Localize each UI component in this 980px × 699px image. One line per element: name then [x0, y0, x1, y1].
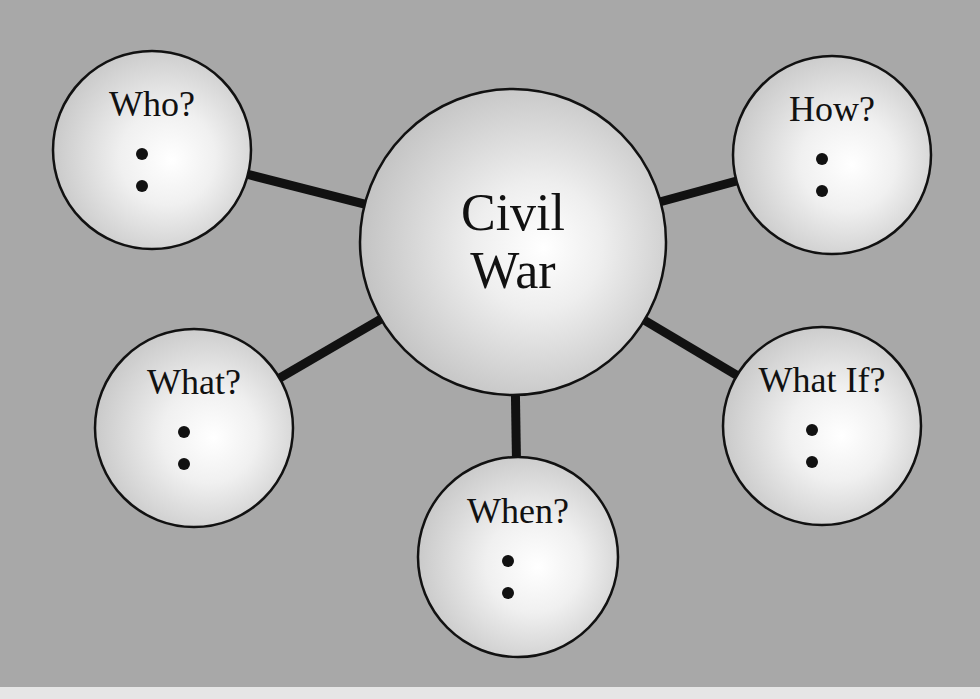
center-label-line-2: War	[470, 242, 555, 299]
node-label-what-if: What If?	[759, 360, 886, 400]
bullet-icon	[502, 587, 514, 599]
bullet-icon	[806, 456, 818, 468]
bullet-icon	[816, 185, 828, 197]
connector-line-how	[659, 181, 739, 203]
node-who: Who?	[53, 51, 251, 249]
bullet-icon	[136, 180, 148, 192]
center-label-line-1: Civil	[461, 184, 565, 241]
node-how: How?	[733, 56, 931, 254]
node-what-if: What If?	[723, 327, 921, 525]
connector-line-who	[246, 174, 367, 205]
bullet-icon	[816, 153, 828, 165]
bullet-icon	[502, 555, 514, 567]
bullet-icon	[136, 148, 148, 160]
connector-line-what-if	[643, 319, 739, 376]
bullet-icon	[178, 458, 190, 470]
connector-line-when	[515, 393, 516, 459]
node-label-how: How?	[789, 89, 875, 129]
bullet-icon	[178, 426, 190, 438]
node-civil-war: Civil War	[360, 89, 666, 395]
connector-line-what	[278, 318, 383, 379]
node-when: When?	[418, 457, 618, 657]
node-label-what: What?	[147, 362, 241, 402]
node-label-who: Who?	[109, 84, 195, 124]
bullet-icon	[806, 424, 818, 436]
node-label-when: When?	[467, 491, 569, 531]
concept-map: Civil War Who? How? What? When? What If?	[0, 0, 980, 699]
node-what: What?	[95, 329, 293, 527]
